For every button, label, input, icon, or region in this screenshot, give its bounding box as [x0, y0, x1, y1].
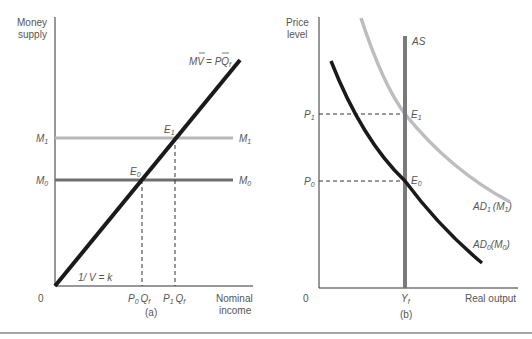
panel-b-caption: (b) — [400, 309, 412, 320]
p1-label: P1 — [304, 109, 315, 121]
yf-label: Yf — [401, 293, 411, 305]
diagram-canvas: Money supply MV= PQf M1 M0 M1 M0 E0 E1 1… — [0, 0, 532, 339]
m1-right-label: M1 — [239, 133, 251, 145]
m1-left-label: M1 — [36, 133, 48, 145]
p0-label: P0 — [304, 176, 315, 188]
quantity-equation-line — [55, 60, 240, 286]
m0-left-label: M0 — [36, 175, 48, 187]
panel-a-caption: (a) — [145, 307, 157, 318]
panel-b: Price level AS P1 P0 E1 E0 AD1(M1) AD0(M… — [286, 17, 518, 320]
ad0-label: AD0(M0) — [472, 239, 510, 251]
ad1-label: AD1(M1) — [472, 201, 512, 213]
panel-b-y-label: Price level — [286, 17, 312, 40]
ad1-curve — [361, 18, 510, 202]
panel-b-origin: 0 — [303, 293, 309, 304]
panel-a-y-label: Money supply — [17, 17, 50, 40]
e1-label-b: E1 — [411, 109, 422, 121]
e1-label: E1 — [164, 124, 175, 136]
as-label: AS — [411, 36, 426, 47]
e0-label-b: E0 — [411, 175, 422, 187]
m0-right-label: M0 — [239, 175, 251, 187]
panel-b-x-label: Real output — [465, 293, 516, 304]
panel-a-origin: 0 — [38, 293, 44, 304]
e0-label: E0 — [130, 166, 141, 178]
slope-label: 1/ V = k — [78, 272, 113, 283]
quantity-equation-label: MV= PQf — [189, 56, 232, 68]
p1qf-label: P1Qf — [163, 293, 186, 305]
panel-a: Money supply MV= PQf M1 M0 M1 M0 E0 E1 1… — [17, 17, 255, 318]
p0qf-label: P0Qf — [128, 293, 151, 305]
panel-a-x-label: Nominal income — [216, 293, 255, 316]
